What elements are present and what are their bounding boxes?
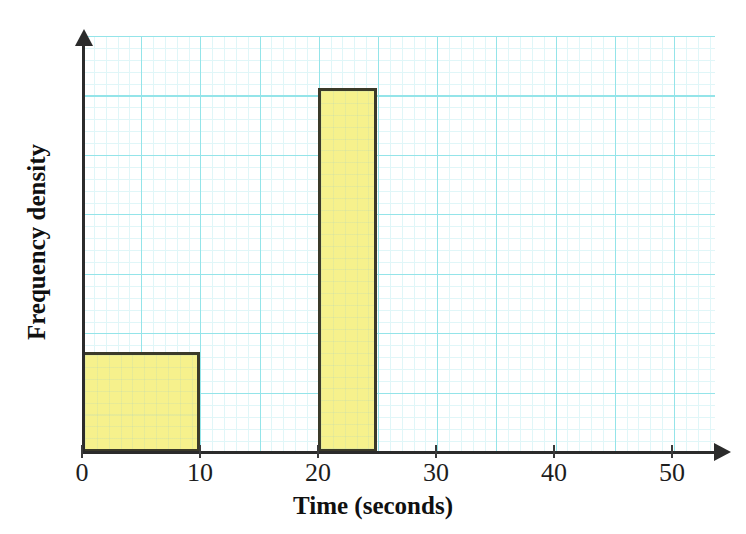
x-tick-label-0: 0 [52,458,112,488]
x-axis-arrow-icon [714,443,731,461]
x-tick-label-30: 30 [406,458,466,488]
y-axis-title: Frequency density [23,92,51,392]
histogram-bar [82,352,200,452]
y-axis-arrow-icon [75,29,93,46]
y-axis-line [82,44,85,454]
x-axis-line [82,451,718,454]
x-tick-label-40: 40 [524,458,584,488]
x-tick-0 [81,445,83,458]
x-tick-label-50: 50 [642,458,702,488]
histogram-bar [318,88,377,452]
x-tick-label-10: 10 [170,458,230,488]
x-tick-40 [553,445,555,458]
x-tick-label-20: 20 [288,458,348,488]
histogram-chart: 01020304050 Time (seconds) Frequency den… [0,0,746,534]
x-tick-30 [435,445,437,458]
x-tick-50 [671,445,673,458]
x-tick-10 [199,445,201,458]
x-tick-20 [317,445,319,458]
x-axis-title: Time (seconds) [0,492,746,520]
cropped-header-text [0,0,746,10]
